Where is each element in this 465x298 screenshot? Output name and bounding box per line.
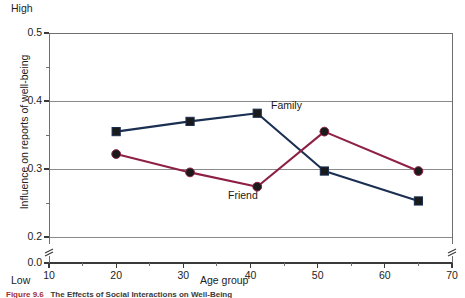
series-label-friend: Friend [228,189,258,201]
x-tick-label: 50 [303,269,333,281]
x-tick-label: 20 [101,269,131,281]
caption-number: Figure 9.6 [6,290,44,298]
series-label-family: Family [271,99,302,111]
figure-caption: Figure 9.6 The Effects of Social Interac… [6,290,465,298]
x-tick-label: 70 [437,269,465,281]
caption-text: The Effects of Social Interactions on We… [50,290,232,298]
x-tick-label: 10 [34,269,64,281]
x-tick-label-group: 10203040506070 [0,0,465,298]
x-tick-label: 30 [168,269,198,281]
x-tick-label: 40 [236,269,266,281]
figure-container: High Low Influence on reports of well-be… [0,0,465,298]
x-tick-label: 60 [370,269,400,281]
